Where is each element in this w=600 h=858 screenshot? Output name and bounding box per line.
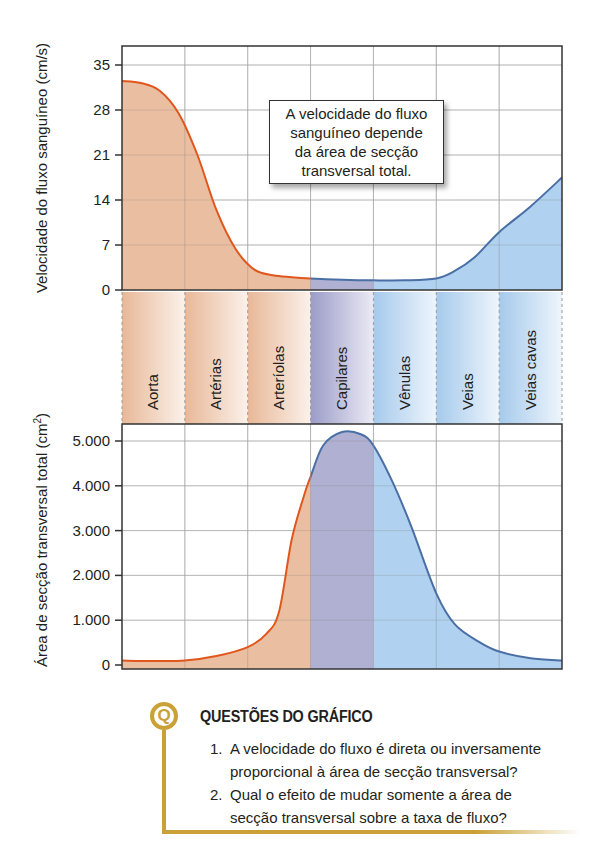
category-label: Capilares bbox=[333, 347, 350, 410]
annotation-line: transversal total. bbox=[270, 161, 443, 180]
y-tick-label: 4.000 bbox=[72, 477, 110, 494]
annotation-callout: A velocidade do fluxo sanguíneo depende … bbox=[269, 100, 444, 184]
questions-list: 1. A velocidade do fluxo é direta ou inv… bbox=[210, 737, 541, 829]
y-tick-label: 21 bbox=[93, 146, 110, 163]
questions-bracket-vertical bbox=[162, 730, 166, 834]
y-tick-label: 14 bbox=[93, 191, 110, 208]
area-area bbox=[122, 424, 562, 669]
y-tick-label: 5.000 bbox=[72, 432, 110, 449]
annotation-line: A velocidade do fluxo bbox=[270, 104, 443, 123]
y-tick-label: 1.000 bbox=[72, 611, 110, 628]
question-number: 1. bbox=[210, 737, 230, 783]
question-text-line: proporcional à área de secção transversa… bbox=[230, 760, 541, 783]
category-label: Arteríolas bbox=[270, 346, 287, 410]
y-tick-label: 35 bbox=[93, 56, 110, 73]
question-text-line: A velocidade do fluxo é direta ou invers… bbox=[230, 737, 541, 760]
velocity-y-axis: 3528211470 bbox=[93, 56, 122, 298]
graph-questions: Q QUESTÕES DO GRÁFICO 1. A velocidade do… bbox=[150, 702, 600, 852]
y-tick-label: 2.000 bbox=[72, 566, 110, 583]
y-tick-label: 3.000 bbox=[72, 522, 110, 539]
questions-title: QUESTÕES DO GRÁFICO bbox=[200, 708, 373, 726]
y-tick-label: 28 bbox=[93, 101, 110, 118]
category-label: Aorta bbox=[144, 373, 161, 410]
annotation-line: sanguíneo depende bbox=[270, 123, 443, 142]
area-chart: 5.0004.0003.0002.0001.0000 Área de secçã… bbox=[32, 413, 562, 673]
y-tick-label: 0 bbox=[102, 656, 110, 673]
y-tick-label: 0 bbox=[102, 281, 110, 298]
questions-bracket-horizontal bbox=[162, 830, 580, 834]
area-y-axis-label: Área de secção transversal total (cm2) bbox=[32, 413, 50, 667]
question-text: Qual o efeito de mudar somente a área de… bbox=[230, 783, 512, 829]
question-text: A velocidade do fluxo é direta ou invers… bbox=[230, 737, 541, 783]
vessel-category-band: AortaArtériasArteríolasCapilaresVênulasV… bbox=[122, 292, 562, 424]
question-text-line: Qual o efeito de mudar somente a área de bbox=[230, 783, 512, 806]
question-badge-icon: Q bbox=[150, 702, 178, 730]
question-item: 2. Qual o efeito de mudar somente a área… bbox=[210, 783, 541, 829]
question-number: 2. bbox=[210, 783, 230, 829]
question-badge-letter: Q bbox=[157, 706, 170, 726]
area-y-axis: 5.0004.0003.0002.0001.0000 bbox=[72, 432, 122, 673]
category-label: Veias cavas bbox=[522, 330, 539, 410]
category-label: Veias bbox=[459, 373, 476, 410]
question-item: 1. A velocidade do fluxo é direta ou inv… bbox=[210, 737, 541, 783]
question-text-line: secção transversal sobre a taxa de fluxo… bbox=[230, 806, 512, 829]
y-tick-label: 7 bbox=[102, 236, 110, 253]
annotation-line: da área de secção bbox=[270, 142, 443, 161]
velocity-y-axis-label: Velocidade do fluxo sanguíneo (cm/s) bbox=[33, 43, 50, 293]
category-label: Vênulas bbox=[396, 356, 413, 410]
category-label: Artérias bbox=[207, 358, 224, 410]
